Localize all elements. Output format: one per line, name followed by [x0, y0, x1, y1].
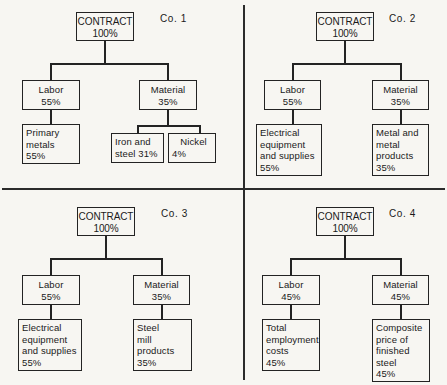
node-value: 45%	[376, 368, 429, 380]
node-line-4: steel	[376, 357, 429, 369]
node-line-2: employment	[266, 334, 319, 346]
quadrant-co-2: Co. 2 CONTRACT 100% Labor 55% Material 3…	[243, 0, 447, 188]
node-electrical-equipment-co-2[interactable]: Electrical equipment and supplies 55%	[256, 124, 322, 176]
node-label: Labor	[23, 84, 79, 96]
node-value: 55%	[23, 291, 79, 303]
connector-root-stem-co-4	[344, 236, 346, 259]
node-value: 55%	[260, 162, 321, 174]
node-line-3: finished	[376, 345, 429, 357]
company-caption-co-1: Co. 1	[160, 13, 187, 24]
node-labor-co-1[interactable]: Labor 55%	[22, 80, 80, 110]
node-total-employment-costs-co-4[interactable]: Total employment costs 45%	[262, 319, 320, 371]
node-line-2: mill	[137, 334, 191, 346]
node-value: 100%	[317, 28, 373, 40]
company-caption-co-3: Co. 3	[161, 208, 188, 219]
node-line-3: and supplies	[22, 345, 81, 357]
node-label: CONTRACT	[317, 211, 373, 223]
node-line-3: costs	[266, 345, 319, 357]
node-line-3: products	[137, 345, 191, 357]
node-line-3: and supplies	[260, 150, 321, 162]
node-line-1: Electrical	[22, 322, 81, 334]
node-contract-co-1[interactable]: CONTRACT 100%	[76, 12, 134, 41]
node-value: 45%	[266, 357, 319, 369]
connector-material-bus-co-1	[137, 125, 200, 127]
connector-material-child-co-3	[161, 305, 163, 320]
node-value: 35%	[134, 291, 189, 303]
node-line-1: Steel	[137, 322, 191, 334]
node-electrical-equipment-co-3[interactable]: Electrical equipment and supplies 55%	[18, 319, 82, 371]
node-value: 35%	[376, 162, 428, 174]
company-caption-co-4: Co. 4	[389, 208, 416, 219]
node-value: 35%	[140, 96, 196, 108]
node-line-1: Electrical	[260, 127, 321, 139]
company-caption-co-2: Co. 2	[389, 13, 416, 24]
figure-canvas: Co. 1 CONTRACT 100% Labor 55% Material 3…	[0, 0, 447, 385]
node-material-co-4[interactable]: Material 45%	[372, 275, 429, 305]
node-value: 55%	[22, 357, 81, 369]
node-value: 55%	[265, 96, 320, 108]
node-labor-co-3[interactable]: Labor 55%	[22, 275, 80, 305]
node-contract-co-2[interactable]: CONTRACT 100%	[316, 12, 374, 41]
quadrant-co-1: Co. 1 CONTRACT 100% Labor 55% Material 3…	[0, 0, 243, 188]
connector-to-material-co-1	[167, 63, 169, 80]
node-value: 45%	[373, 291, 428, 303]
node-line-1: Metal and	[376, 127, 428, 139]
connector-to-material-co-2	[400, 63, 402, 80]
node-line-2: equipment	[260, 139, 321, 151]
node-label: Labor	[23, 279, 79, 291]
connector-labor-child-co-3	[50, 305, 52, 320]
node-label: Material	[140, 84, 196, 96]
node-label: Material	[373, 84, 428, 96]
node-line-2: equipment	[22, 334, 81, 346]
node-value: 100%	[77, 28, 133, 40]
connector-root-stem-co-2	[344, 41, 346, 64]
node-steel-mill-products-co-3[interactable]: Steel mill products 35%	[133, 319, 192, 371]
node-primary-metals-co-1[interactable]: Primary metals 55%	[22, 124, 80, 164]
node-label: CONTRACT	[317, 16, 373, 28]
node-material-co-1[interactable]: Material 35%	[139, 80, 197, 110]
node-iron-and-steel-co-1[interactable]: Iron and steel 31%	[111, 133, 164, 163]
node-line-1: Composite	[376, 322, 429, 334]
node-label: Material	[134, 279, 189, 291]
connector-to-labor-co-1	[50, 63, 52, 80]
connector-root-stem-co-1	[104, 41, 106, 64]
node-label: CONTRACT	[78, 211, 134, 223]
connector-labor-child-co-4	[290, 305, 292, 320]
node-label: CONTRACT	[77, 16, 133, 28]
node-value: 45%	[263, 291, 319, 303]
node-line-2: price of	[376, 334, 429, 346]
node-value: 35%	[137, 357, 191, 369]
node-value: 4%	[172, 148, 215, 160]
quadrant-co-3: Co. 3 CONTRACT 100% Labor 55% Material 3…	[0, 188, 243, 385]
node-line-2: metals	[26, 139, 79, 151]
quadrant-co-4: Co. 4 CONTRACT 100% Labor 45% Material 4…	[243, 188, 447, 385]
connector-root-bus-co-4	[290, 258, 401, 260]
connector-to-material-co-4	[400, 258, 402, 275]
connector-material-child-co-4	[400, 305, 402, 320]
node-line-2: steel 31%	[115, 148, 163, 160]
node-label: Labor	[265, 84, 320, 96]
connector-to-labor-co-2	[292, 63, 294, 80]
node-contract-co-3[interactable]: CONTRACT 100%	[77, 207, 135, 236]
connector-root-bus-co-1	[50, 63, 168, 65]
connector-to-labor-co-4	[290, 258, 292, 275]
node-contract-co-4[interactable]: CONTRACT 100%	[316, 207, 374, 236]
connector-root-bus-co-3	[50, 258, 162, 260]
node-material-co-2[interactable]: Material 35%	[372, 80, 429, 110]
node-value: 35%	[373, 96, 428, 108]
node-label: Material	[373, 279, 428, 291]
connector-root-stem-co-3	[105, 236, 107, 259]
node-value: 55%	[26, 150, 79, 162]
node-composite-price-finished-steel-co-4[interactable]: Composite price of finished steel 45%	[372, 319, 430, 382]
node-line-3: products	[376, 150, 428, 162]
node-labor-co-2[interactable]: Labor 55%	[264, 80, 321, 110]
node-labor-co-4[interactable]: Labor 45%	[262, 275, 320, 305]
connector-root-bus-co-2	[292, 63, 401, 65]
node-material-co-3[interactable]: Material 35%	[133, 275, 190, 305]
node-metal-products-co-2[interactable]: Metal and metal products 35%	[372, 124, 429, 176]
node-nickel-co-1[interactable]: Nickel 4%	[168, 133, 216, 163]
node-line-1: Primary	[26, 127, 79, 139]
connector-to-material-co-3	[161, 258, 163, 275]
node-line-1: Total	[266, 322, 319, 334]
connector-to-labor-co-3	[50, 258, 52, 275]
